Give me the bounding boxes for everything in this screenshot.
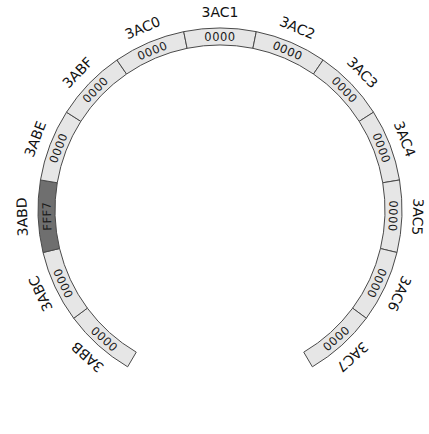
segment-value: 0000 <box>204 30 235 44</box>
segment-value: FFF7 <box>40 201 55 231</box>
ring-segments <box>38 28 402 367</box>
segment-address-label: 3AC4 <box>391 119 419 159</box>
memory-ring-diagram: 00000000FFF70000000000000000000000000000… <box>0 0 429 434</box>
segment-address-label: 3AC5 <box>409 198 426 235</box>
segment-address-label: 3AC1 <box>202 4 239 20</box>
segment-address-label: 3ABD <box>13 197 30 236</box>
segment-address-label: 3ABE <box>21 119 49 159</box>
segment-address-label: 3AC6 <box>384 274 414 314</box>
segment-address-label: 3AC0 <box>123 13 163 42</box>
segment-address-label: 3AC2 <box>277 13 317 42</box>
segment-value: 0000 <box>385 200 400 232</box>
